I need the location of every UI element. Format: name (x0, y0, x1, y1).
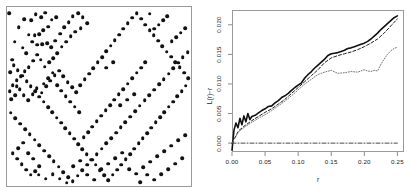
point-pattern-dot (46, 105, 50, 109)
point-pattern-dot (57, 69, 61, 73)
point-pattern-dot (38, 32, 42, 36)
point-pattern-dot (31, 59, 35, 63)
point-pattern-dot (68, 132, 72, 136)
point-pattern-dot (109, 136, 113, 140)
point-pattern-dot (51, 173, 55, 177)
point-pattern-dot (96, 61, 100, 65)
point-pattern-dot (29, 18, 33, 22)
point-pattern-dot (117, 93, 121, 97)
x-tick-label: 0.10 (284, 158, 312, 165)
point-pattern-dot (138, 180, 142, 184)
point-pattern-dot (83, 78, 87, 82)
point-pattern-dot (50, 18, 54, 22)
point-pattern-dot (161, 44, 165, 48)
point-pattern-dot (60, 45, 64, 49)
point-pattern-dot (157, 83, 161, 87)
point-pattern-dot (42, 100, 46, 104)
point-pattern-dot (92, 178, 96, 182)
point-pattern-dot (137, 142, 141, 146)
point-pattern-dot (94, 163, 98, 167)
x-tick-label: 0.00 (218, 158, 246, 165)
point-pattern-dot (13, 40, 17, 44)
point-pattern-dot (13, 93, 17, 97)
point-pattern-dot (57, 165, 61, 169)
point-pattern-dot (24, 51, 28, 55)
point-pattern-dot (180, 89, 184, 93)
point-pattern-dot (45, 41, 49, 45)
point-pattern-dot (22, 93, 26, 97)
point-pattern-dot (71, 179, 75, 183)
point-pattern-dot (158, 115, 162, 119)
point-pattern-dot (51, 56, 55, 60)
point-pattern-dot (95, 152, 99, 156)
x-tick-label: 0.20 (350, 158, 378, 165)
point-pattern-dot (23, 70, 27, 74)
point-pattern-dot (44, 177, 48, 181)
point-pattern-dot (71, 164, 75, 168)
point-pattern-dot (73, 105, 77, 109)
point-pattern-dot (161, 18, 165, 22)
point-pattern-dot (108, 103, 112, 107)
point-pattern-dot (47, 25, 51, 29)
figure-root: 0.000.050.100.150.200.250.0000.0050.0100… (0, 0, 413, 191)
y-axis-title: L(r)−r (206, 76, 213, 116)
point-pattern-dot (113, 98, 117, 102)
point-pattern-dot (92, 66, 96, 70)
point-pattern-dot (100, 55, 104, 59)
point-pattern-dot (171, 100, 175, 104)
point-pattern-dot (35, 53, 39, 57)
point-pattern-dot (152, 33, 156, 37)
point-pattern-dot (85, 163, 89, 167)
point-pattern-dot (55, 15, 59, 19)
point-pattern-dot (163, 110, 167, 114)
point-pattern-dot (38, 95, 42, 99)
point-pattern-dot (107, 178, 111, 182)
point-pattern-dot (26, 99, 30, 103)
point-pattern-dot (65, 181, 69, 185)
point-pattern-dot (102, 174, 106, 178)
point-pattern-dot (58, 32, 62, 36)
point-pattern-dot (64, 126, 68, 130)
point-pattern-dot (76, 174, 80, 178)
point-pattern-dot (41, 42, 45, 46)
point-pattern-dot (135, 71, 139, 75)
series-observed (232, 16, 397, 150)
point-pattern-dot (166, 167, 170, 171)
point-pattern-dot (181, 56, 185, 60)
point-pattern-dot (21, 46, 25, 50)
point-pattern-dot (23, 127, 27, 131)
point-pattern-dot (90, 158, 94, 162)
point-pattern-dot (21, 141, 25, 145)
point-pattern-dot (148, 28, 152, 32)
point-pattern-dot (39, 58, 43, 62)
point-pattern-dot (60, 89, 64, 93)
point-pattern-dot (134, 172, 138, 176)
point-pattern-dot (46, 76, 50, 80)
point-pattern-dot (59, 121, 63, 125)
point-pattern-dot (150, 126, 154, 130)
point-pattern-dot (65, 40, 69, 44)
point-pattern-dot (169, 55, 173, 59)
point-pattern-dot (47, 61, 51, 65)
point-pattern-dot (77, 110, 81, 114)
point-pattern-dot (64, 94, 68, 98)
point-pattern-dot (62, 25, 66, 29)
point-pattern-dot (145, 173, 149, 177)
curve-group (232, 16, 397, 150)
point-pattern-dot (81, 147, 85, 151)
point-pattern-dot (38, 164, 42, 168)
point-pattern-dot (173, 162, 177, 166)
point-pattern-dot (50, 111, 54, 115)
point-pattern-dot (36, 43, 40, 47)
point-pattern-dot (79, 26, 83, 30)
point-pattern-dot (167, 105, 171, 109)
point-pattern-dot (169, 144, 173, 148)
point-pattern-dot (118, 103, 122, 107)
point-pattern-dot (139, 17, 143, 21)
point-pattern-dot (152, 27, 156, 31)
point-pattern-dot (111, 173, 115, 177)
point-pattern-dot (68, 100, 72, 104)
point-pattern-dot (124, 120, 128, 124)
point-pattern-dot (175, 95, 179, 99)
point-pattern-dot (66, 176, 70, 180)
